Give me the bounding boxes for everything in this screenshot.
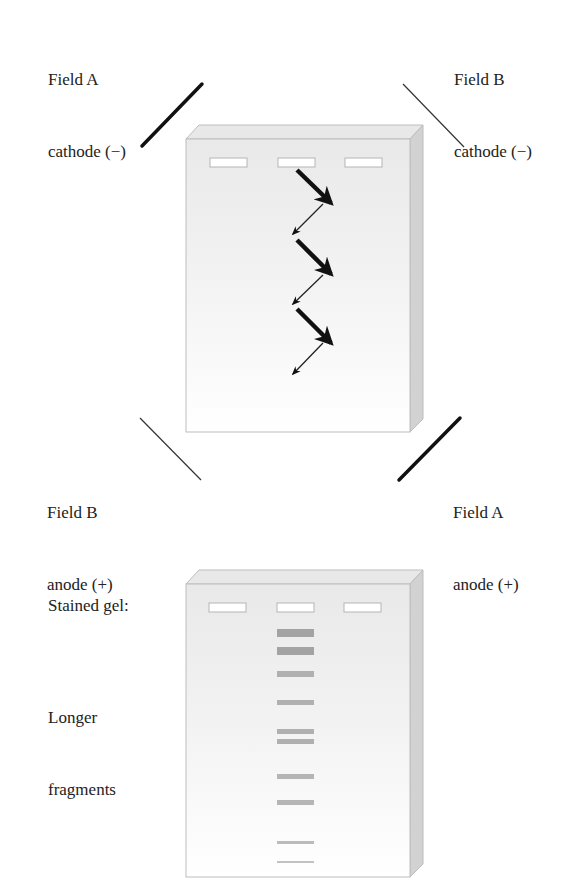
dna-band — [277, 739, 314, 744]
dna-band — [277, 671, 314, 677]
stained-gel-side-face — [410, 570, 423, 877]
top-gel-well-3 — [345, 158, 382, 167]
top-gel-well-2 — [278, 158, 315, 167]
stained-gel-well-2 — [277, 603, 314, 612]
dna-band — [277, 647, 314, 655]
top-gel-front-face — [186, 139, 410, 432]
stained-gel-well-3 — [344, 603, 381, 612]
dna-band — [277, 841, 314, 844]
top-gel-well-1 — [210, 158, 247, 167]
top-gel-side-face — [410, 125, 423, 432]
diagram-canvas — [0, 0, 585, 880]
top-gel-top-face — [186, 125, 423, 139]
dna-band — [277, 729, 314, 734]
stained-gel-top-face — [186, 570, 423, 584]
top-gel — [186, 125, 423, 432]
dna-band — [277, 800, 314, 805]
dna-band — [277, 629, 314, 637]
stained-gel-well-1 — [209, 603, 246, 612]
dna-band — [277, 774, 314, 779]
stained-gel — [186, 570, 423, 877]
dna-band — [277, 861, 314, 863]
dna-band — [277, 700, 314, 705]
